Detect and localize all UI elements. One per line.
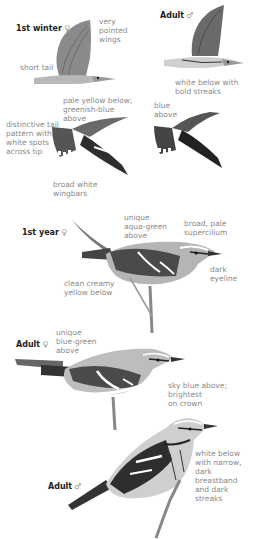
label-white-below-bold-streaks: white below with bold streaks — [175, 78, 238, 96]
bird-illustration-adult-male-flight-underwing-icon — [152, 110, 232, 170]
bird-illustration-1st-winter-flight-underwing-icon — [50, 115, 130, 180]
bird-illustration-1st-winter-flight-icon — [32, 18, 122, 88]
female-symbol-icon: ♀ — [61, 228, 67, 237]
bird-illustration-1st-year-female-perched-icon — [70, 218, 225, 333]
figure-title-1st-year-female: 1st year♀ — [22, 228, 67, 237]
bird-illustration-adult-male-perched-icon — [66, 410, 211, 539]
label-broad-white-wingbars: broad white wingbars — [53, 180, 98, 198]
title-text: 1st year — [22, 228, 59, 237]
bird-illustration-adult-male-flight-icon — [162, 4, 252, 72]
